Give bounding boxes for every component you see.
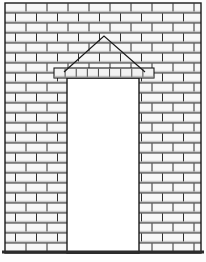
door-opening (67, 78, 139, 253)
figure-root: Brick wall elevation with door opening a… (0, 0, 206, 262)
brick-wall-elevation-drawing (0, 0, 206, 262)
flat-brick-lintel (54, 68, 154, 78)
